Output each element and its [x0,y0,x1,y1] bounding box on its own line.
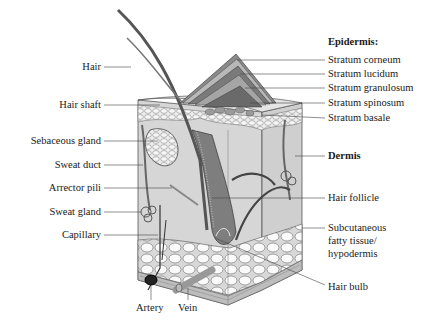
label-hair-bulb: Hair bulb [328,281,368,293]
label-stratum-basale: Stratum basale [328,112,390,124]
label-artery: Artery [136,302,163,314]
label-subcutaneous-2: fatty tissue/ [328,235,377,247]
label-arrector-pili: Arrector pili [49,182,101,194]
label-sebaceous-gland: Sebaceous gland [31,135,101,147]
label-hair-follicle: Hair follicle [328,192,379,204]
label-vein: Vein [178,302,197,314]
label-dermis: Dermis [328,150,361,162]
label-sweat-gland: Sweat gland [49,206,101,218]
label-stratum-corneum: Stratum corneum [328,54,401,66]
label-hair-shaft: Hair shaft [59,99,101,111]
epidermis-heading: Epidermis: [328,36,378,48]
label-stratum-granulosum: Stratum granulosum [328,82,413,94]
label-sweat-duct: Sweat duct [55,159,101,171]
label-hair: Hair [82,61,101,73]
label-subcutaneous-1: Subcutaneous [328,222,386,234]
label-capillary: Capillary [62,229,101,241]
label-stratum-spinosum: Stratum spinosum [328,97,404,109]
label-stratum-lucidum: Stratum lucidum [328,68,398,80]
label-subcutaneous-3: hypodermis [328,248,378,260]
skin-diagram: Epidermis: Stratum corneum Stratum lucid… [0,0,441,334]
